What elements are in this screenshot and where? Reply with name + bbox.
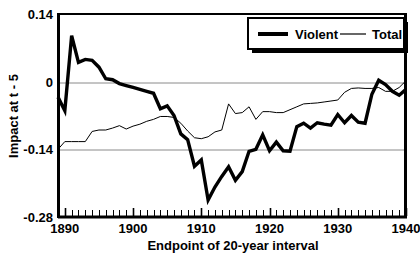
legend-label-violent: Violent — [295, 27, 339, 42]
y-tick-label: 0 — [46, 75, 53, 90]
x-tick-label: 1890 — [50, 221, 79, 236]
line-chart: 0.140-0.14-0.28 189019001910192019301940… — [0, 0, 420, 255]
y-axis-title: Impact at t - 5 — [6, 74, 21, 158]
x-tick-label: 1920 — [255, 221, 284, 236]
y-tick-label: -0.28 — [23, 210, 53, 225]
x-axis-title: Endpoint of 20-year interval — [147, 238, 318, 253]
legend-label-total: Total — [372, 27, 402, 42]
y-axis-tick-labels: 0.140-0.14-0.28 — [23, 7, 53, 225]
y-tick-label: -0.14 — [23, 142, 53, 157]
x-tick-label: 1930 — [323, 221, 352, 236]
chart-legend: Violent Total — [248, 18, 408, 53]
x-tick-label: 1940 — [392, 221, 420, 236]
x-tick-label: 1900 — [119, 221, 148, 236]
x-axis-tick-labels: 189019001910192019301940 — [50, 221, 420, 236]
chart-figure: 0.140-0.14-0.28 189019001910192019301940… — [0, 0, 420, 255]
x-tick-label: 1910 — [187, 221, 216, 236]
y-tick-label: 0.14 — [28, 7, 54, 22]
